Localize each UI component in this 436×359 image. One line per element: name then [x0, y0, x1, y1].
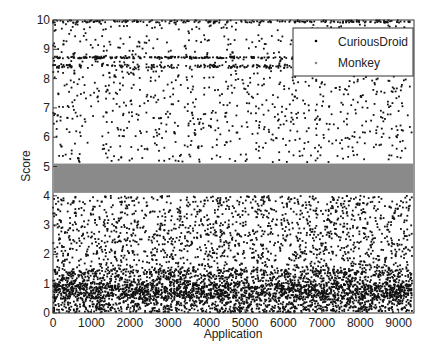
y-tick-label: 4 — [43, 189, 50, 203]
y-tick-label: 7 — [43, 101, 50, 115]
y-tick-label: 1 — [43, 277, 50, 291]
scatter-chart: 012345678910 010002000300040005000600070… — [0, 0, 436, 359]
x-tick-label: 0 — [50, 316, 57, 330]
x-tick-label: 3000 — [155, 316, 182, 330]
y-axis: 012345678910 — [37, 13, 57, 320]
monkey-marker-icon — [315, 62, 318, 65]
y-tick-label: 9 — [43, 42, 50, 56]
legend-label-curiousdroid: CuriousDroid — [338, 35, 408, 49]
y-tick-label: 2 — [43, 247, 50, 261]
y-tick-label: 5 — [43, 160, 50, 174]
x-axis-label: Application — [204, 327, 263, 341]
x-tick-label: 9000 — [385, 316, 412, 330]
x-tick-label: 2000 — [116, 316, 143, 330]
x-tick-label: 6000 — [270, 316, 297, 330]
y-tick-label: 10 — [37, 13, 51, 27]
curiousdroid-marker-icon — [315, 40, 318, 43]
x-tick-label: 1000 — [78, 316, 105, 330]
legend-label-monkey: Monkey — [338, 56, 380, 70]
y-axis-label: Score — [19, 150, 33, 182]
monkey-band — [54, 164, 413, 193]
x-tick-label: 8000 — [347, 316, 374, 330]
legend: CuriousDroid Monkey — [293, 28, 413, 76]
y-tick-label: 6 — [43, 130, 50, 144]
y-tick-label: 3 — [43, 218, 50, 232]
y-tick-label: 8 — [43, 72, 50, 86]
x-tick-label: 7000 — [308, 316, 335, 330]
chart-canvas: 012345678910 010002000300040005000600070… — [0, 0, 436, 359]
